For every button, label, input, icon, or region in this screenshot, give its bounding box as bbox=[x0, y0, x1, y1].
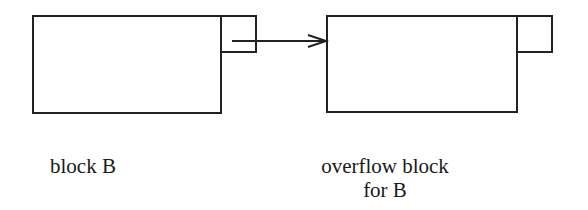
overflow-label-line1: overflow block bbox=[300, 154, 470, 178]
overflow-label-line2: for B bbox=[300, 178, 470, 202]
block-b-label: block B bbox=[50, 154, 116, 178]
overflow-block-pointer-slot bbox=[517, 16, 552, 52]
overflow-block-label: overflow block for B bbox=[300, 154, 470, 202]
block-b-pointer-slot bbox=[221, 16, 256, 52]
diagram-canvas bbox=[0, 0, 588, 210]
block-b-rect bbox=[33, 16, 221, 113]
overflow-block-rect bbox=[327, 16, 517, 112]
